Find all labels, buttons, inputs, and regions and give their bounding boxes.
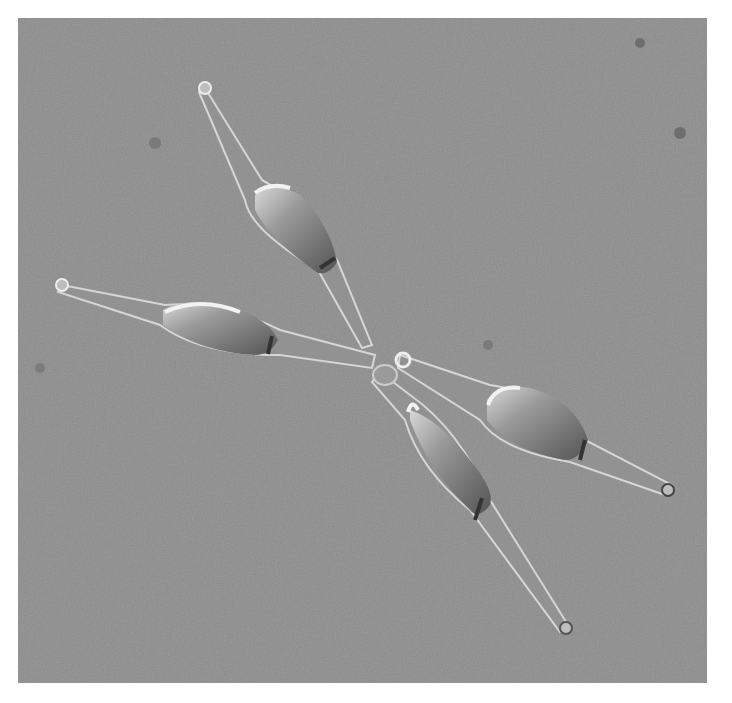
- diatom-colony-image: [18, 18, 707, 683]
- micrograph: [18, 18, 707, 683]
- background: [18, 18, 707, 683]
